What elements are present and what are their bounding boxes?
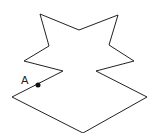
point-a-marker — [36, 83, 41, 88]
polygon-outline — [12, 14, 147, 133]
point-a-label: A — [21, 75, 29, 86]
star-polygon-diagram — [0, 0, 159, 133]
